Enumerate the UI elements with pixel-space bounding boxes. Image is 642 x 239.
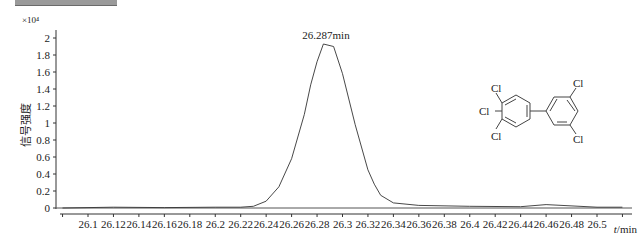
- x-tick-label: 26.26: [279, 218, 304, 230]
- y-axis-label: 信号强度: [19, 103, 32, 147]
- y-multiplier-label: ×10⁴: [22, 15, 39, 25]
- peak-annotation: 26.287min: [302, 29, 350, 41]
- x-tick-label: 26.4: [460, 218, 480, 230]
- chemical-structure: Cl Cl Cl Cl Cl: [479, 77, 583, 145]
- x-tick-label: 26.12: [101, 218, 126, 230]
- y-tick-label: 0.2: [36, 185, 50, 197]
- series-line: [63, 44, 623, 208]
- y-tick-label: 1.6: [36, 66, 50, 78]
- chromatogram-chart: 00.20.40.60.811.21.41.61.82 26.126.1226.…: [0, 0, 642, 239]
- x-tick-label: 26.14: [127, 218, 152, 230]
- y-tick-label: 0.6: [36, 151, 50, 163]
- y-axis: 00.20.40.60.811.21.41.61.82: [36, 30, 56, 214]
- x-tick-label: 26.44: [508, 218, 533, 230]
- y-tick-label: 1.2: [36, 100, 50, 112]
- chromatogram-curve: [63, 44, 623, 208]
- x-tick-label: 26.38: [432, 218, 457, 230]
- x-tick-label: 26.18: [177, 218, 202, 230]
- chlorine-label: Cl: [491, 82, 501, 94]
- chlorine-label: Cl: [479, 105, 489, 117]
- x-tick-label: 26.16: [152, 218, 177, 230]
- x-axis: 26.126.1226.1426.1626.1826.226.2226.2426…: [56, 208, 632, 230]
- chlorine-label: Cl: [491, 130, 501, 142]
- x-axis-label-unit: /min: [617, 223, 638, 235]
- x-tick-label: 26.22: [228, 218, 253, 230]
- chlorine-label: Cl: [573, 133, 583, 145]
- x-tick-label: 26.46: [534, 218, 559, 230]
- x-tick-label: 26.42: [483, 218, 508, 230]
- chlorine-label: Cl: [573, 77, 583, 89]
- x-axis-label: t/min: [614, 223, 638, 235]
- x-tick-label: 26.32: [356, 218, 381, 230]
- y-tick-label: 1.8: [36, 49, 50, 61]
- x-tick-label: 26.36: [406, 218, 431, 230]
- left-ring-icon: [502, 95, 530, 127]
- x-tick-label: 26.28: [305, 218, 330, 230]
- y-tick-label: 1.4: [36, 83, 50, 95]
- x-tick-label: 26.1: [78, 218, 97, 230]
- y-tick-label: 0: [45, 202, 51, 214]
- y-tick-label: 0.4: [36, 168, 50, 180]
- x-tick-label: 26.24: [254, 218, 279, 230]
- x-tick-label: 26.5: [587, 218, 607, 230]
- y-tick-label: 0.8: [36, 134, 50, 146]
- right-ring-icon: [546, 97, 578, 125]
- x-tick-label: 26.2: [206, 218, 225, 230]
- x-tick-label: 26.48: [559, 218, 584, 230]
- x-tick-label: 26.34: [381, 218, 406, 230]
- peak-retention-time-label: 26.287min: [302, 29, 350, 41]
- y-tick-label: 1: [45, 117, 51, 129]
- y-tick-label: 2: [45, 32, 51, 44]
- x-tick-label: 26.3: [333, 218, 353, 230]
